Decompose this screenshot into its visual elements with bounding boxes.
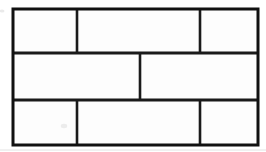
brick-wall-diagram <box>0 0 266 152</box>
brick-top-left <box>13 9 77 53</box>
brick-bottom-middle <box>77 100 200 145</box>
brick-top-right <box>200 9 258 53</box>
screenshot-canvas <box>0 0 266 152</box>
smudge-bottom-left <box>61 124 67 128</box>
brick-bottom-left <box>13 100 77 145</box>
brick-middle-left <box>13 53 140 100</box>
brick-fill-group <box>13 9 258 145</box>
brick-middle-right <box>140 53 258 100</box>
brick-bottom-right <box>200 100 258 145</box>
brick-top-middle <box>77 9 200 53</box>
